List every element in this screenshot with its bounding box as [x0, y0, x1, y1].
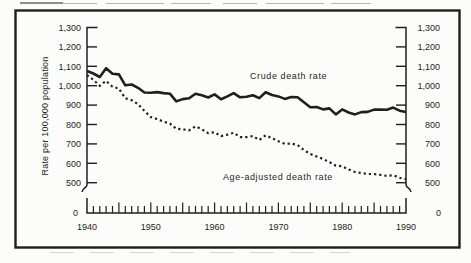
x-tick-label: 1990: [396, 222, 416, 232]
death-rates-chart: Rate per 100,000 population 1,3001,3001,…: [0, 0, 471, 263]
y-axis-left: [82, 28, 98, 193]
y-tick-label-right: 1,300: [417, 23, 440, 33]
series-lines: [87, 68, 406, 179]
y-tick-label-left: 800: [66, 120, 81, 130]
x-tick-label: 1950: [141, 222, 161, 232]
x-tick-label: 1960: [205, 222, 225, 232]
y-tick-label-left: 1,100: [58, 62, 81, 72]
y-tick-label-right: 1,100: [417, 62, 440, 72]
y-tick-label-left: 600: [66, 159, 81, 169]
scanned-figure-page: Rate per 100,000 population 1,3001,3001,…: [0, 0, 471, 263]
y-axis-title: Rate per 100,000 population: [40, 57, 50, 176]
y-tick-label-left: 700: [66, 139, 81, 149]
axes: [82, 28, 411, 214]
y-tick-label-right: 500: [425, 178, 440, 188]
crude-death-rate-line: [87, 68, 406, 114]
series-label: Crude death rate: [250, 71, 327, 81]
y-zero-label-left: 0: [73, 208, 78, 218]
series-annotations: Crude death rateAge-adjusted death rate: [223, 71, 333, 182]
x-tick-label: 1970: [268, 222, 288, 232]
y-tick-label-right: 600: [425, 159, 440, 169]
y-tick-label-right: 800: [425, 120, 440, 130]
x-tick-label: 1940: [77, 222, 97, 232]
y-zero-label-right: 0: [436, 208, 441, 218]
y-tick-label-right: 700: [425, 139, 440, 149]
y-tick-label-left: 500: [66, 178, 81, 188]
y-tick-label-left: 1,000: [58, 81, 81, 91]
tick-labels: 1,3001,3001,2001,2001,1001,1001,0001,000…: [58, 23, 441, 232]
y-tick-label-left: 900: [66, 100, 81, 110]
y-tick-label-left: 1,200: [58, 42, 81, 52]
y-tick-label-right: 1,000: [417, 81, 440, 91]
y-tick-label-right: 900: [425, 100, 440, 110]
series-label: Age-adjusted death rate: [223, 172, 333, 182]
y-tick-label-left: 1,300: [58, 23, 81, 33]
age-adjusted-death-rate-line: [87, 75, 406, 179]
x-tick-label: 1980: [332, 222, 352, 232]
y-tick-label-right: 1,200: [417, 42, 440, 52]
